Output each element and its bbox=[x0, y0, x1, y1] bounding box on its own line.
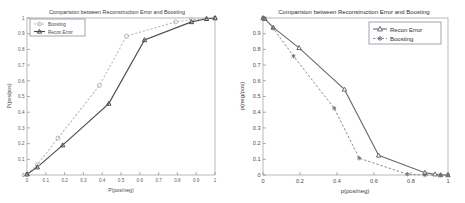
left-series-group bbox=[25, 16, 217, 177]
y-tick-label: 1 bbox=[22, 16, 25, 21]
x-tick-label: 0 bbox=[26, 178, 29, 183]
y-tick-label: 0.7 bbox=[18, 63, 25, 68]
y-tick-label: 0.4 bbox=[18, 110, 25, 115]
y-tick-label: 0.4 bbox=[253, 109, 261, 115]
chart-panel-right: Comparision between Reconstruction Error… bbox=[232, 0, 465, 203]
right-chart-svg: Comparision between Reconstruction Error… bbox=[232, 0, 465, 203]
series-line-recon-error bbox=[27, 18, 215, 174]
y-tick-label: 0.5 bbox=[18, 94, 25, 99]
y-tick-label: 0.6 bbox=[18, 79, 25, 84]
x-tick-label: 0.4 bbox=[99, 178, 106, 183]
x-tick-label: 0.5 bbox=[118, 178, 125, 183]
y-tick-label: 0.2 bbox=[18, 141, 25, 146]
x-tick-label: 0.1 bbox=[43, 178, 50, 183]
right-y-axis-ticks: 00.10.20.30.40.50.60.70.80.9 bbox=[253, 30, 266, 177]
figure-root: Comparision between Reconstruction Error… bbox=[0, 0, 465, 203]
y-tick-label: 0 bbox=[22, 173, 25, 178]
y-tick-label: 0.1 bbox=[253, 156, 261, 162]
right-legend-label-0: Recon Error bbox=[390, 27, 422, 33]
x-tick-label: 1 bbox=[446, 178, 449, 184]
marker-recon-error bbox=[376, 153, 380, 157]
chart-panel-left: Comparision between Reconstruction Error… bbox=[0, 0, 232, 203]
right-legend: Recon Error Boosting bbox=[369, 22, 441, 44]
marker-boosting bbox=[292, 54, 296, 58]
left-y-axis-ticks: 00.10.20.30.40.50.60.70.80.91 bbox=[18, 16, 30, 178]
x-tick-label: 0.7 bbox=[155, 178, 162, 183]
y-tick-label: 0.6 bbox=[253, 78, 261, 84]
right-x-axis-ticks: 00.20.40.60.81 bbox=[261, 172, 449, 184]
y-tick-label: 0.7 bbox=[253, 62, 261, 68]
left-y-axis-label: P(pos/pos) bbox=[6, 83, 12, 108]
x-tick-label: 0.2 bbox=[61, 178, 68, 183]
left-chart-title: Comparision between Reconstruction Error… bbox=[49, 9, 185, 15]
y-tick-label: 0.9 bbox=[253, 30, 261, 36]
x-tick-label: 0.4 bbox=[333, 178, 341, 184]
right-y-axis-label: p(neg/pos) bbox=[239, 82, 245, 111]
left-legend-label-1: Recon Error bbox=[48, 30, 73, 35]
left-x-axis-ticks: 00.10.20.30.40.50.60.70.80.91 bbox=[26, 172, 217, 183]
x-tick-label: 0.6 bbox=[137, 178, 144, 183]
x-tick-label: 0.2 bbox=[296, 178, 304, 184]
y-tick-label: 0 bbox=[257, 172, 260, 178]
y-tick-label: 0.2 bbox=[253, 140, 261, 146]
right-x-axis-label: p(pos/neg) bbox=[341, 188, 370, 194]
x-tick-label: 0.8 bbox=[407, 178, 415, 184]
y-tick-label: 0.8 bbox=[18, 47, 25, 52]
marker-boosting bbox=[56, 136, 60, 140]
y-tick-label: 0.8 bbox=[253, 46, 261, 52]
marker-recon-error bbox=[433, 172, 437, 176]
y-tick-label: 0.5 bbox=[253, 93, 261, 99]
y-tick-label: 0.3 bbox=[253, 125, 261, 131]
x-tick-label: 0 bbox=[261, 178, 264, 184]
marker-boosting bbox=[97, 84, 101, 88]
series-line-boosting bbox=[27, 18, 215, 174]
x-tick-label: 0.9 bbox=[193, 178, 200, 183]
y-tick-label: 0.3 bbox=[18, 126, 25, 131]
right-chart-title: Comparision between Reconstruction Error… bbox=[278, 9, 429, 15]
left-x-axis-label: P(pos/neg) bbox=[108, 187, 134, 193]
left-chart-svg: Comparision between Reconstruction Error… bbox=[0, 0, 232, 203]
x-tick-label: 0.3 bbox=[80, 178, 87, 183]
left-legend: Boosting Recon Error bbox=[30, 19, 85, 36]
y-tick-label: 0.1 bbox=[18, 157, 25, 162]
right-legend-label-1: Boosting bbox=[390, 36, 413, 42]
x-tick-label: 1 bbox=[214, 178, 217, 183]
x-tick-label: 0.8 bbox=[174, 178, 181, 183]
y-tick-label: 0.9 bbox=[18, 31, 25, 36]
x-tick-label: 0.6 bbox=[370, 178, 378, 184]
left-legend-label-0: Boosting bbox=[48, 22, 66, 27]
